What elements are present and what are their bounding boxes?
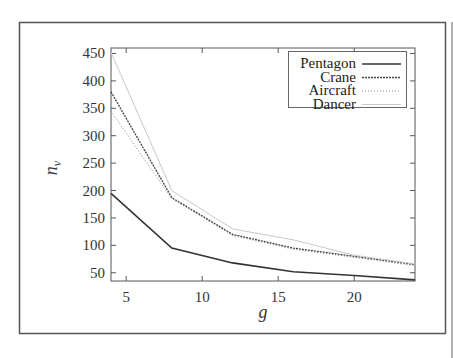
- y-tick-label: 400: [83, 73, 106, 89]
- y-tick-label: 100: [83, 237, 106, 253]
- series-line-crane: [111, 92, 415, 265]
- legend-label-dancer: Dancer: [313, 96, 356, 112]
- x-tick-label: 10: [195, 289, 210, 305]
- y-tick-label: 350: [83, 100, 106, 116]
- x-tick-label: 15: [271, 289, 286, 305]
- legend: PentagonCraneAircraftDancer: [289, 52, 407, 112]
- x-tick-label: 5: [122, 289, 130, 305]
- series-line-aircraft: [111, 111, 415, 266]
- y-tick-label: 250: [83, 155, 106, 171]
- y-tick-label: 450: [83, 45, 106, 61]
- y-tick-label: 200: [83, 183, 106, 199]
- y-tick-label: 300: [83, 128, 106, 144]
- series-line-pentagon: [111, 193, 415, 280]
- y-tick-label: 50: [90, 265, 105, 281]
- svg-text:nv: nv: [41, 160, 64, 175]
- x-tick-label: 20: [347, 289, 362, 305]
- line-chart: 50100150200250300350400450 5101520 g nv …: [0, 0, 453, 358]
- y-tick-label: 150: [83, 210, 106, 226]
- y-axis-title: nv: [41, 160, 64, 175]
- x-axis-title: g: [259, 302, 268, 322]
